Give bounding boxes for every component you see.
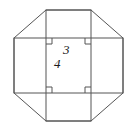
dimension-label-3: 3 bbox=[63, 43, 70, 56]
geometry-figure: 3 4 bbox=[0, 0, 138, 131]
right-angle-top-left-icon bbox=[46, 38, 52, 44]
vertical-band bbox=[46, 10, 91, 121]
right-angle-top-right-icon bbox=[85, 38, 91, 44]
octagon-cross-diagram bbox=[0, 0, 138, 131]
dimension-label-4: 4 bbox=[54, 57, 61, 70]
right-angle-bottom-left-icon bbox=[46, 87, 52, 93]
outer-octagon bbox=[14, 10, 123, 121]
right-angle-bottom-right-icon bbox=[85, 87, 91, 93]
